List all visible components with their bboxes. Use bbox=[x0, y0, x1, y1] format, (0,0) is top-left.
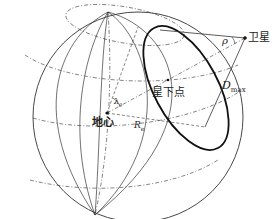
re-symbol: R bbox=[134, 120, 141, 130]
satellite-point bbox=[243, 36, 247, 40]
parallels bbox=[25, 0, 242, 188]
lambda-label: λ0 bbox=[114, 98, 122, 108]
rho-arc bbox=[232, 37, 235, 44]
re-subscript: e bbox=[141, 125, 145, 132]
dmax-subscript: max bbox=[231, 86, 246, 94]
center-to-edge-top bbox=[107, 27, 138, 113]
rho-label: ρ bbox=[222, 36, 228, 46]
subsatellite-point bbox=[167, 79, 170, 82]
meridians bbox=[56, 12, 172, 215]
earth-center-label: 地心 bbox=[92, 117, 114, 128]
center-to-edge-bottom bbox=[107, 113, 205, 127]
dmax-symbol: D bbox=[222, 79, 231, 92]
nadir-line bbox=[107, 38, 245, 113]
lambda-subscript: 0 bbox=[119, 102, 122, 108]
earth-center-point bbox=[105, 111, 108, 114]
satellite-label: 卫星 bbox=[248, 32, 270, 43]
earth-radius-label: Re bbox=[134, 121, 144, 132]
dmax-label: Dmax bbox=[222, 80, 246, 94]
subsatellite-label: 星下点 bbox=[152, 87, 185, 98]
satellite-lines bbox=[160, 30, 245, 127]
globe-outline bbox=[33, 12, 243, 219]
diagram-canvas bbox=[0, 0, 272, 219]
